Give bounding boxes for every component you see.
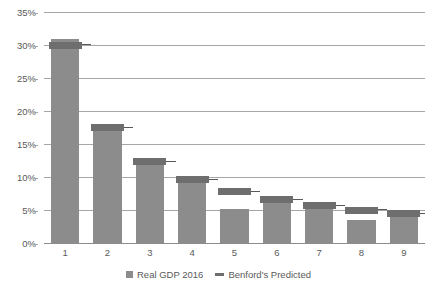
y-axis-tick-mark: [34, 178, 38, 179]
y-axis-tick-mark: [34, 145, 38, 146]
chart-legend: Real GDP 2016Benford's Predicted: [0, 270, 437, 280]
benford-predicted-marker: [303, 202, 336, 209]
x-axis-tick-label: 4: [171, 247, 213, 259]
x-axis-tick-label: 5: [213, 247, 255, 259]
legend-label: Benford's Predicted: [228, 270, 311, 280]
y-axis-tick-mark: [34, 244, 38, 245]
benford-predicted-marker: [91, 124, 124, 131]
bar-real-gdp: [263, 199, 291, 244]
x-axis-tick-label: 2: [86, 247, 128, 259]
benford-gdp-bar-chart: 0%5%10%15%20%25%30%35% 123456789 Real GD…: [0, 0, 437, 294]
x-axis-tick-label: 1: [44, 247, 86, 259]
bar-group: [171, 13, 213, 244]
legend-label: Real GDP 2016: [137, 270, 203, 280]
bar-real-gdp: [305, 204, 333, 244]
bar-group: [298, 13, 340, 244]
bar-real-gdp: [136, 161, 164, 244]
bar-group: [383, 13, 425, 244]
benford-predicted-marker: [176, 176, 209, 183]
bar-real-gdp: [93, 127, 121, 244]
plot-area: [44, 13, 425, 244]
bar-real-gdp: [347, 220, 375, 244]
x-axis-tick-label: 8: [340, 247, 382, 259]
benford-predicted-marker: [345, 207, 378, 214]
legend-entry[interactable]: Benford's Predicted: [215, 270, 311, 280]
y-axis-tick-mark: [34, 46, 38, 47]
bar-real-gdp: [220, 209, 248, 244]
bar-group: [213, 13, 255, 244]
x-axis: 123456789: [44, 247, 425, 263]
bar-group: [86, 13, 128, 244]
y-axis-tick-mark: [34, 211, 38, 212]
y-axis: 0%5%10%15%20%25%30%35%: [0, 13, 38, 244]
legend-square-icon: [126, 271, 133, 278]
bar-group: [256, 13, 298, 244]
x-axis-tick-label: 9: [383, 247, 425, 259]
benford-predicted-marker: [49, 42, 82, 49]
legend-entry[interactable]: Real GDP 2016: [126, 270, 203, 280]
bar-group: [340, 13, 382, 244]
bar-real-gdp: [390, 214, 418, 244]
benford-predicted-marker: [218, 188, 251, 195]
bar-group: [129, 13, 171, 244]
y-axis-tick-mark: [34, 112, 38, 113]
x-axis-tick-label: 3: [129, 247, 171, 259]
benford-connector-line: [420, 213, 425, 214]
bar-real-gdp: [178, 179, 206, 244]
y-axis-tick-mark: [34, 79, 38, 80]
legend-dash-icon: [215, 273, 224, 276]
benford-predicted-marker: [260, 196, 293, 203]
bar-real-gdp: [51, 39, 79, 244]
x-axis-tick-label: 6: [256, 247, 298, 259]
benford-predicted-marker: [133, 158, 166, 165]
y-axis-tick-mark: [34, 13, 38, 14]
benford-predicted-marker: [387, 210, 420, 217]
x-axis-tick-label: 7: [298, 247, 340, 259]
bar-group: [44, 13, 86, 244]
